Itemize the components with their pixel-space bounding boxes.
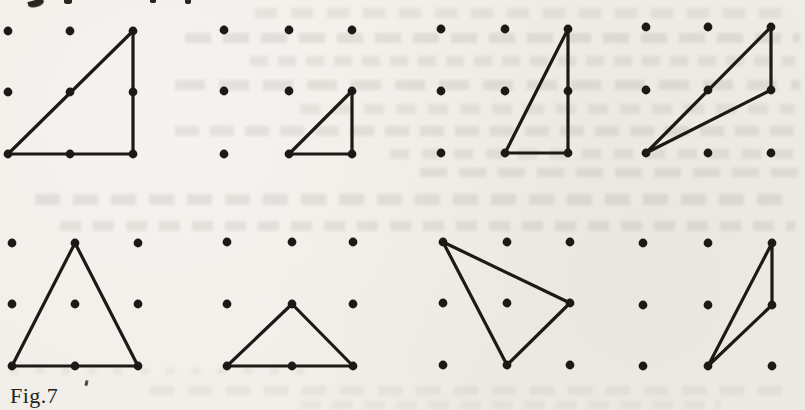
grid-dot (223, 238, 232, 247)
grid-dot (704, 301, 713, 310)
grid-dot (503, 238, 512, 247)
grid-dot (288, 238, 297, 247)
grid-dot (285, 87, 294, 96)
grid-dot (639, 301, 648, 310)
grid-dot (704, 23, 713, 32)
grid-dot (71, 300, 80, 309)
panel-top-4 (642, 23, 776, 158)
grid-dot (348, 26, 357, 35)
panel-bottom-4 (639, 239, 777, 371)
grid-dot (134, 239, 143, 248)
grid-dot (66, 27, 75, 36)
grid-dot (437, 87, 446, 96)
grid-dot (642, 86, 651, 95)
panel-top-1 (4, 27, 138, 159)
cutoff-glyph-mark (150, 0, 156, 3)
grid-dot (501, 87, 510, 96)
triangle (646, 27, 771, 153)
panel-top-3 (437, 25, 573, 158)
grid-dot (220, 26, 229, 35)
grid-dot (8, 239, 17, 248)
grid-dot (768, 362, 777, 371)
grid-dot (439, 361, 448, 370)
grid-dot (223, 300, 232, 309)
panel-bottom-1 (8, 239, 143, 371)
triangle (505, 29, 568, 153)
cutoff-glyph-mark (185, 0, 191, 4)
grid-dot (220, 150, 229, 159)
grid-dot (501, 25, 510, 34)
grid-dot (439, 299, 448, 308)
triangle (289, 91, 352, 154)
grid-dot (566, 238, 575, 247)
panel-bottom-3 (439, 238, 575, 370)
grid-dot (566, 361, 575, 370)
grid-dot (8, 300, 17, 309)
grid-dot (437, 149, 446, 158)
grid-dot (642, 23, 651, 32)
grid-dot (767, 149, 776, 158)
grid-dot (349, 300, 358, 309)
scanned-book-page: Fig.7 (0, 0, 805, 410)
grid-dot (639, 362, 648, 371)
grid-dot (503, 299, 512, 308)
panel-bottom-2 (223, 238, 358, 371)
panel-top-2 (220, 26, 357, 159)
geoboard-triangles-figure (0, 0, 805, 410)
cutoff-glyph-mark (64, 0, 72, 4)
grid-dot (704, 239, 713, 248)
grid-dot (639, 239, 648, 248)
grid-dot (220, 87, 229, 96)
grid-dot (349, 238, 358, 247)
grid-dot (4, 27, 13, 36)
grid-dot (134, 300, 143, 309)
grid-dot (437, 25, 446, 34)
grid-dot (704, 149, 713, 158)
triangle (708, 243, 772, 366)
triangle (227, 304, 353, 366)
triangle (8, 31, 133, 154)
grid-dot (285, 26, 294, 35)
figure-caption: Fig.7 (10, 383, 58, 409)
grid-dot (4, 88, 13, 97)
